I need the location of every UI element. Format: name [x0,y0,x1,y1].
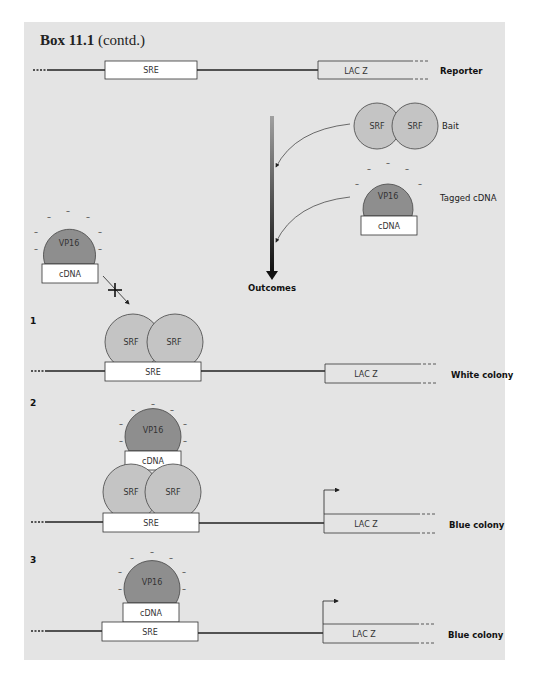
scenario-3-number: 3 [30,555,36,565]
tagged-curve-arrow [276,197,350,242]
svg-text:–: – [182,585,186,594]
svg-text:–: – [86,213,90,222]
tagged-cdna-label: Tagged cDNA [439,193,497,203]
svg-text:–: – [130,554,134,563]
bait-dimer: SRF SRF Bait [354,103,459,149]
svg-text:–: – [98,228,102,237]
svg-text:–: – [131,406,135,415]
svg-text:cDNA: cDNA [59,270,82,279]
svg-text:–: – [118,568,122,577]
reporter-construct: SRE LAC Z Reporter [33,61,483,79]
svg-text:cDNA: cDNA [142,457,165,466]
svg-text:–: – [418,180,422,189]
svg-text:–: – [367,165,371,174]
transcription-start-arrow [323,601,338,624]
scenario-3-result: Blue colony [448,630,504,640]
svg-text:SRF: SRF [369,122,385,131]
svg-text:–: – [182,568,186,577]
svg-text:VP16: VP16 [143,426,163,435]
outcomes-label: Outcomes [248,283,296,293]
svg-text:cDNA: cDNA [140,609,163,618]
blocked-arrow [103,276,129,304]
scenario-1-result: White colony [451,370,514,380]
tagged-cdna: – – – – – VP16 cDNA Tagged cDNA [355,159,497,235]
scenario-2-number: 2 [30,398,36,408]
lacz-label: LAC Z [344,67,368,76]
diagram-canvas: SRE LAC Z Reporter Outcomes SRF SRF Bait… [0,0,540,686]
svg-text:LAC Z: LAC Z [354,520,378,529]
svg-text:–: – [118,585,122,594]
svg-text:SRE: SRE [143,519,159,528]
svg-text:–: – [47,213,51,222]
bait-label: Bait [442,121,459,131]
svg-text:–: – [405,165,409,174]
svg-text:VP16: VP16 [378,192,398,201]
svg-text:–: – [119,420,123,429]
svg-text:SRF: SRF [407,122,423,131]
scenario-2: – – – – – – – VP16 cDNA SRF SRF SRE LAC … [31,400,505,533]
svg-text:–: – [169,554,173,563]
free-vp16-cdna: – – – – – – – VP16 cDNA [34,207,102,283]
svg-text:SRF: SRF [123,338,139,347]
sre-label: SRE [143,66,159,75]
svg-text:–: – [98,245,102,254]
svg-text:–: – [183,420,187,429]
svg-text:LAC Z: LAC Z [352,630,376,639]
svg-text:VP16: VP16 [59,239,79,248]
reporter-label: Reporter [440,66,483,76]
svg-text:SRE: SRE [142,628,158,637]
svg-text:–: – [151,400,155,409]
svg-text:LAC Z: LAC Z [354,370,378,379]
scenario-1: SRF SRF SRE LAC Z White colony [31,314,514,383]
transcription-start-arrow [324,490,339,514]
scenario-3: – – – – – – – VP16 cDNA SRE LAC Z Blue c… [31,548,504,643]
svg-text:–: – [34,228,38,237]
svg-text:SRF: SRF [166,338,182,347]
svg-text:–: – [34,245,38,254]
svg-text:–: – [150,548,154,557]
svg-text:–: – [66,207,70,216]
svg-text:–: – [119,437,123,446]
svg-text:–: – [183,437,187,446]
svg-text:–: – [170,406,174,415]
svg-text:SRE: SRE [145,368,161,377]
svg-text:VP16: VP16 [142,578,162,587]
svg-text:cDNA: cDNA [378,222,401,231]
scenario-2-result: Blue colony [449,520,505,530]
svg-text:–: – [355,180,359,189]
svg-text:SRF: SRF [123,488,139,497]
svg-text:–: – [386,159,390,168]
scenario-1-number: 1 [30,316,36,326]
outcomes-arrow: Outcomes [248,116,296,293]
svg-text:SRF: SRF [165,488,181,497]
bait-curve-arrow [276,124,350,167]
